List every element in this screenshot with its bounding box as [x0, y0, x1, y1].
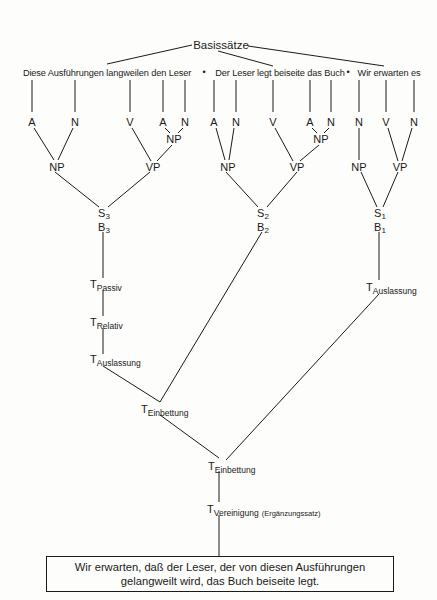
result-line-2: gelangweilt wird, das Buch beiseite legt… — [47, 574, 393, 588]
leaf-noun: N — [327, 116, 335, 128]
base-sentence-1: Wir erwarten es — [358, 67, 421, 79]
leaf-noun: N — [71, 116, 79, 128]
vereinigung-note: (Ergänzungssatz) — [262, 509, 321, 518]
transformation-einbettung-2: TEinbettung — [208, 460, 255, 476]
transformation-einbettung-1: TEinbettung — [141, 403, 188, 419]
result-line-1: Wir erwarten, daß der Leser, der von die… — [47, 560, 393, 574]
phrase-vp-1: VP — [146, 161, 161, 173]
transformation-tree-diagram: Basissätze Diese Ausführungen langweilen… — [0, 0, 437, 600]
result-sentence-box: Wir erwarten, daß der Leser, der von die… — [46, 556, 394, 592]
phrase-vp-3: VP — [393, 161, 408, 173]
transformation-vereinigung: TVereinigung (Ergänzungssatz) — [207, 503, 320, 520]
base-sentence-2: Der Leser legt beiseite das Buch — [215, 67, 345, 79]
phrase-np-inner-2: NP — [313, 133, 328, 145]
leaf-noun: N — [181, 116, 189, 128]
leaf-verb: V — [126, 116, 133, 128]
transformation-auslassung-left: TAuslassung — [90, 353, 141, 369]
separator-dot-icon: • — [346, 66, 349, 78]
leaf-adjective: A — [306, 116, 313, 128]
leaf-adjective: A — [210, 116, 217, 128]
phrase-np-2: NP — [220, 161, 235, 173]
phrase-vp-2: VP — [290, 161, 305, 173]
leaf-adjective: A — [28, 116, 35, 128]
separator-dot-icon: • — [202, 66, 205, 78]
transformation-passiv: TPassiv — [90, 278, 122, 294]
sentence-node-s3-b3: S3 B3 — [98, 208, 110, 236]
leaf-verb: V — [269, 116, 276, 128]
leaf-noun: N — [232, 116, 240, 128]
transformation-relativ: TRelativ — [90, 316, 123, 332]
sentence-node-s2-b2: S2 B2 — [257, 208, 269, 236]
transformation-auslassung-right: TAuslassung — [366, 281, 417, 297]
root-label-basissaetze: Basissätze — [193, 39, 249, 51]
sentence-node-s1-b1: S1 B1 — [374, 208, 386, 236]
leaf-verb: V — [382, 116, 389, 128]
leaf-noun: N — [410, 116, 418, 128]
leaf-adjective: A — [159, 116, 166, 128]
phrase-np-1: NP — [49, 161, 64, 173]
phrase-np-inner-1: NP — [166, 133, 181, 145]
base-sentence-3: Diese Ausführungen langweilen den Leser — [23, 67, 191, 79]
phrase-np-3: NP — [351, 161, 366, 173]
leaf-noun: N — [355, 116, 363, 128]
